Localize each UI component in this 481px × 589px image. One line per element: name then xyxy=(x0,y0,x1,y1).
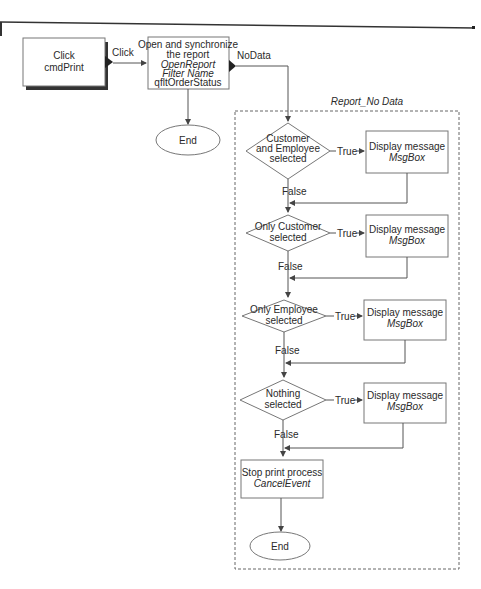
decision-3: Only Employee selected xyxy=(242,300,326,332)
svg-text:True: True xyxy=(337,146,358,157)
open-report-node: Open and synchronize the report OpenRepo… xyxy=(138,37,239,89)
svg-text:End: End xyxy=(179,135,197,146)
svg-text:selected: selected xyxy=(269,232,306,243)
svg-text:selected: selected xyxy=(269,153,306,164)
flowchart: Click cmdPrint Click Open and synchroniz… xyxy=(0,0,481,589)
decision-4: Nothing selected xyxy=(240,380,326,420)
svg-text:Nothing: Nothing xyxy=(266,388,300,399)
svg-text:CancelEvent: CancelEvent xyxy=(254,478,312,489)
start-line2: cmdPrint xyxy=(44,62,84,73)
svg-text:MsgBox: MsgBox xyxy=(387,401,424,412)
click-label: Click xyxy=(112,47,135,58)
svg-text:End: End xyxy=(271,541,289,552)
svg-text:False: False xyxy=(274,429,299,440)
svg-text:Stop print process: Stop print process xyxy=(242,467,323,478)
start-node: Click cmdPrint xyxy=(23,38,108,90)
svg-text:False: False xyxy=(275,345,300,356)
svg-text:Only Customer: Only Customer xyxy=(255,221,322,232)
start-line1: Click xyxy=(53,50,76,61)
nodata-label: NoData xyxy=(237,50,271,61)
svg-text:True: True xyxy=(337,228,358,239)
svg-text:False: False xyxy=(278,261,303,272)
svg-text:True: True xyxy=(335,311,356,322)
decision-1: Customer and Employee selected xyxy=(246,123,330,179)
group-title: Report_No Data xyxy=(331,96,404,107)
svg-text:Display message: Display message xyxy=(369,141,446,152)
svg-text:MsgBox: MsgBox xyxy=(389,235,426,246)
svg-text:Display message: Display message xyxy=(367,307,444,318)
svg-text:selected: selected xyxy=(265,315,302,326)
decision-2: Only Customer selected xyxy=(246,215,330,251)
svg-text:MsgBox: MsgBox xyxy=(389,152,426,163)
svg-text:qfltOrderStatus: qfltOrderStatus xyxy=(154,77,221,88)
svg-text:Display message: Display message xyxy=(367,390,444,401)
svg-text:selected: selected xyxy=(264,399,301,410)
svg-text:MsgBox: MsgBox xyxy=(387,318,424,329)
svg-text:True: True xyxy=(335,395,356,406)
svg-text:Only Employee: Only Employee xyxy=(250,304,318,315)
svg-text:Display message: Display message xyxy=(369,224,446,235)
svg-text:False: False xyxy=(282,186,307,197)
top-rule xyxy=(0,22,475,28)
